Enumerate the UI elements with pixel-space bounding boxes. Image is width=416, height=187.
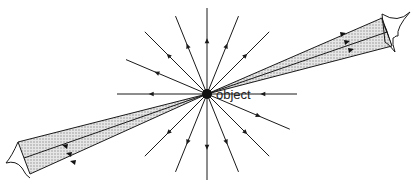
ray-line: [145, 32, 207, 94]
arrowhead-icon: [205, 145, 210, 150]
ray-line: [207, 94, 269, 156]
object-point: [202, 89, 212, 99]
beam-left: [18, 94, 207, 174]
ray-diagram: object: [0, 0, 416, 187]
arrowhead-icon: [205, 38, 210, 43]
object-label: object: [216, 87, 251, 102]
arrowhead-icon: [149, 92, 154, 97]
beam-right: [207, 16, 392, 94]
arrowhead-icon: [260, 92, 265, 97]
